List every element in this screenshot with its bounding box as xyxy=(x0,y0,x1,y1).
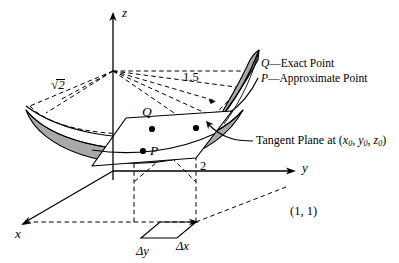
hub-ray-a xyxy=(113,71,236,87)
diagonal-11-dashed xyxy=(196,187,286,222)
value-1_5-label: 1.5 xyxy=(183,71,199,84)
point-Q-label: Q xyxy=(142,105,152,119)
hub-ray-e xyxy=(30,71,113,106)
legend-text-Q: Exact Point xyxy=(281,57,334,69)
y-axis-label: y xyxy=(302,161,308,174)
measure-1_5-leader xyxy=(113,71,216,104)
delta-x-label: Δx xyxy=(176,240,189,253)
callout-suffix: ) xyxy=(382,133,386,147)
point-Q-surface-dot xyxy=(193,125,199,131)
point-Q-dot xyxy=(149,126,155,132)
legend: Q—Exact Point P—Approximate Point xyxy=(261,56,367,85)
legend-symbol-P: P xyxy=(261,72,268,84)
sqrt2-radical: √2 xyxy=(50,78,65,91)
legend-text-P: Approximate Point xyxy=(280,72,368,84)
hub-ray-d xyxy=(60,71,113,100)
delta-y-label: Δy xyxy=(136,245,149,258)
delta-parallelogram xyxy=(141,222,196,238)
legend-dash-Q: — xyxy=(269,57,281,69)
x-axis-label: x xyxy=(15,227,21,240)
base-point-label: (1, 1) xyxy=(290,205,317,218)
z-axis-label: z xyxy=(122,6,127,19)
legend-item-P: P—Approximate Point xyxy=(261,71,367,86)
measure-1_5-dashed xyxy=(113,71,216,101)
point-P-dot xyxy=(140,148,146,154)
tangent-plane-figure: z y x √2 1.5 2 Q P Δx Δy (1, 1) Tangent … xyxy=(0,0,399,263)
sqrt2-overbar xyxy=(56,79,65,80)
delta-quad xyxy=(141,222,196,238)
x-axis-arrowhead xyxy=(21,217,31,225)
sqrt2-label: √2 xyxy=(50,78,65,91)
legend-item-Q: Q—Exact Point xyxy=(261,56,367,71)
point-P-label: P xyxy=(150,144,158,158)
tangent-plane-callout: Tangent Plane at (x0, y0, z0) xyxy=(256,134,386,148)
legend-dash-P: — xyxy=(268,72,280,84)
figure-canvas xyxy=(0,0,399,263)
callout-prefix: Tangent Plane at ( xyxy=(256,133,343,147)
value-2-label: 2 xyxy=(200,160,206,173)
x-axis-line xyxy=(27,171,113,221)
